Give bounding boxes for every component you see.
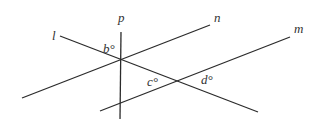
line-p [120,32,121,119]
angle-label-b: b° [103,41,115,56]
line-n [22,25,210,98]
angle-label-c: c° [147,74,158,89]
angle-label-d: d° [201,72,213,87]
line-label-p: p [117,10,125,25]
line-m [100,37,290,111]
line-l [60,36,258,112]
line-label-l: l [52,28,56,43]
line-label-n: n [214,10,221,25]
line-label-m: m [294,21,303,36]
lines-group [22,25,290,119]
diagram-canvas: lnmpb°c°d° [0,0,317,124]
labels-group: lnmpb°c°d° [52,10,303,89]
geometry-diagram: lnmpb°c°d° [0,0,317,124]
